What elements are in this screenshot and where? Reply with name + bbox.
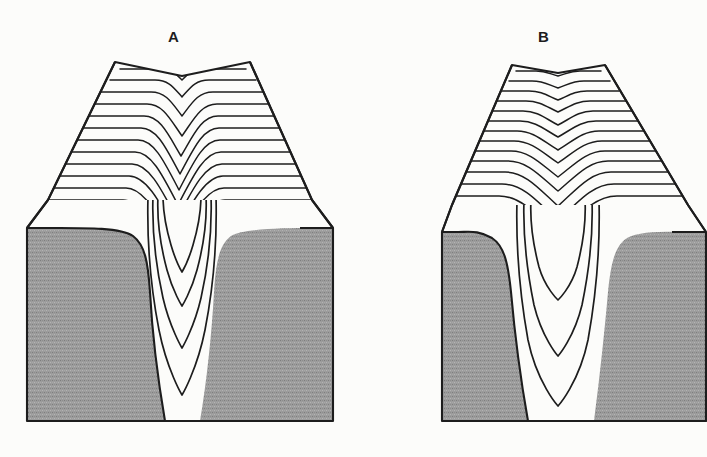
contour-line [531, 200, 585, 300]
contour-line [517, 200, 599, 406]
contour-line [60, 152, 306, 205]
block-a-subsurface-contours [148, 196, 216, 395]
contour-line [488, 111, 637, 125]
contour-line [163, 196, 201, 272]
contour-line [446, 172, 691, 206]
block-diagram-svg [0, 0, 707, 457]
figure-root: A B [0, 0, 707, 457]
block-b-ridge-right-edge [605, 65, 706, 232]
block-a-ridge-right-edge [250, 62, 333, 228]
contour-line [502, 91, 619, 100]
contour-line [158, 196, 206, 306]
contour-line [120, 69, 246, 80]
contour-line [84, 116, 282, 156]
contour-line [92, 104, 274, 136]
contour-line [460, 151, 673, 177]
contour-line [44, 176, 322, 232]
contour-line [436, 196, 705, 236]
contour-line [52, 164, 314, 219]
panel-label-a: A [168, 28, 179, 45]
contour-line [110, 80, 256, 97]
block-a-bedrock-left [27, 228, 165, 421]
block-a-bedrock-right [200, 228, 333, 421]
block-diagram-a [27, 62, 338, 421]
contour-line [441, 184, 698, 221]
panel-label-b: B [538, 28, 549, 45]
block-diagram-b [436, 65, 706, 421]
block-b-front-face [442, 232, 706, 421]
contour-line [509, 81, 610, 88]
contour-line [481, 121, 646, 137]
block-b-bedrock-right [594, 232, 706, 421]
contour-line [453, 161, 682, 191]
block-b-surface-contours [436, 71, 705, 236]
block-a-ridge-left-edge [27, 62, 115, 228]
block-b-ridge-left-edge [442, 65, 512, 232]
contour-line [467, 141, 664, 163]
contour-line [68, 140, 298, 190]
contour-line [524, 200, 592, 356]
block-b-subsurface-contours [517, 200, 599, 406]
